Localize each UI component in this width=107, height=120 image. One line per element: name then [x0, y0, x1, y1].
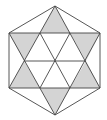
shaded-star-point-2 — [70, 61, 100, 88]
shaded-star-point-4 — [9, 61, 40, 88]
shaded-star-point-0 — [40, 6, 70, 33]
hexagram-diagram — [0, 0, 107, 120]
hexagram-svg — [0, 0, 107, 120]
shaded-star-point-5 — [9, 33, 40, 61]
shaded-star-point-1 — [70, 33, 100, 61]
shaded-star-point-3 — [40, 88, 70, 115]
